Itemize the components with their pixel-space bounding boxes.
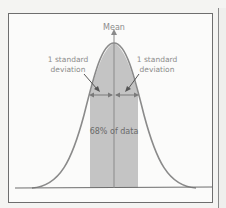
mean-label: Mean (103, 23, 125, 32)
right-sd-label-line2: deviation (140, 65, 175, 74)
normal-distribution-diagram: Mean 1 standard deviation 1 standard dev… (0, 0, 226, 208)
right-sd-label-line1: 1 standard (137, 55, 178, 64)
center-percentage-label: 68% of data (90, 127, 139, 136)
left-sd-label-line2: deviation (51, 65, 86, 74)
left-sd-label-line1: 1 standard (48, 55, 89, 64)
